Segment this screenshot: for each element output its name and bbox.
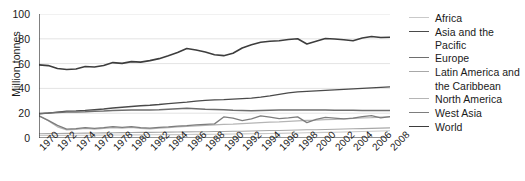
legend-line-icon: [408, 26, 430, 38]
legend-line-icon: [408, 52, 430, 64]
y-tick-label: 40: [6, 83, 30, 94]
line-chart: Million tonnes 020406080100 197019721974…: [0, 0, 525, 181]
legend-label: World: [435, 121, 462, 134]
legend-label: Africa: [435, 12, 462, 25]
y-tick-label: 20: [6, 108, 30, 119]
legend-item[interactable]: Africa: [408, 12, 525, 25]
chart-legend: AfricaAsia and the PacificEuropeLatin Am…: [408, 12, 525, 135]
legend-label: Latin America and: [435, 66, 520, 79]
series-line: [39, 116, 390, 129]
legend-line-icon: [408, 107, 430, 119]
series-line: [39, 108, 390, 113]
y-tick-label: 0: [6, 133, 30, 144]
legend-label: West Asia: [435, 107, 482, 120]
legend-item[interactable]: Europe: [408, 52, 525, 65]
y-tick-label: 100: [6, 9, 30, 20]
y-tick-label: 80: [6, 34, 30, 45]
legend-label: Asia and the Pacific: [435, 26, 525, 51]
y-tick-label: 60: [6, 59, 30, 70]
legend-line-icon: [408, 12, 430, 24]
legend-line-icon: [408, 66, 430, 78]
legend-item[interactable]: West Asia: [408, 107, 525, 120]
legend-label-continuation: the Caribbean: [408, 80, 525, 93]
legend-line-icon: [408, 121, 430, 133]
legend-item[interactable]: World: [408, 121, 525, 134]
legend-label: Europe: [435, 52, 469, 65]
legend-item[interactable]: North America: [408, 93, 525, 106]
legend-item[interactable]: Latin America and: [408, 66, 525, 79]
x-axis-tick-labels: 1970197219741976197819801982198419861988…: [39, 140, 399, 181]
legend-line-icon: [408, 93, 430, 105]
plot-area: [39, 14, 390, 138]
y-axis-tick-labels: 020406080100: [4, 0, 30, 181]
series-line: [39, 37, 390, 70]
legend-item[interactable]: Asia and the Pacific: [408, 26, 525, 51]
legend-label: North America: [435, 93, 502, 106]
